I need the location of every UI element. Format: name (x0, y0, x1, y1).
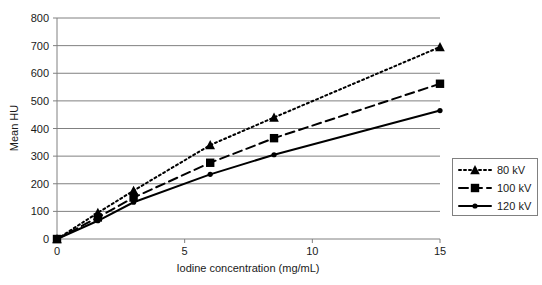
legend-label: 80 kV (497, 164, 526, 176)
data-point-circle (54, 236, 59, 241)
y-tick-label: 600 (31, 67, 49, 79)
line-chart: 0100200300400500600700800 051015 Mean HU… (0, 0, 542, 285)
x-tick-label: 5 (182, 245, 188, 257)
legend-label: 120 kV (497, 200, 532, 212)
data-point-square (436, 80, 444, 88)
y-tick-label: 800 (31, 12, 49, 24)
y-tick-label: 700 (31, 40, 49, 52)
legend-marker-square (471, 184, 479, 192)
data-point-circle (131, 200, 136, 205)
x-axis-title: Iodine concentration (mg/mL) (176, 262, 319, 274)
x-tick-label: 10 (306, 245, 318, 257)
y-tick-label: 500 (31, 95, 49, 107)
y-tick-label: 200 (31, 178, 49, 190)
data-point-circle (95, 218, 100, 223)
x-tick-label: 0 (54, 245, 60, 257)
data-point-circle (437, 108, 442, 113)
data-point-circle (271, 152, 276, 157)
y-tick-label: 100 (31, 205, 49, 217)
data-point-square (206, 159, 214, 167)
y-tick-label: 0 (43, 233, 49, 245)
legend-label: 100 kV (497, 182, 532, 194)
y-axis-title: Mean HU (8, 105, 20, 152)
y-tick-label: 300 (31, 150, 49, 162)
x-tick-label: 15 (434, 245, 446, 257)
chart-background (0, 0, 542, 285)
chart-figure: 0100200300400500600700800 051015 Mean HU… (0, 0, 542, 285)
y-tick-label: 400 (31, 123, 49, 135)
data-point-circle (208, 172, 213, 177)
legend-marker-circle (472, 203, 477, 208)
data-point-square (270, 134, 278, 142)
